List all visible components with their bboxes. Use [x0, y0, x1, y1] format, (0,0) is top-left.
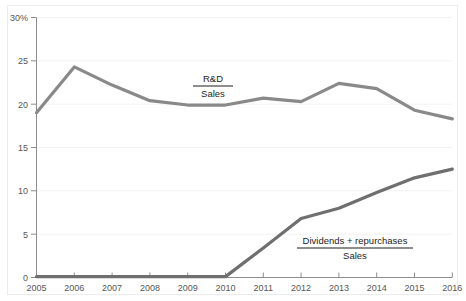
xtick-label-2009: 2009 — [178, 283, 198, 293]
chart-figure: 30% 25 20 15 10 5 0 2005 2006 2007 2008 … — [0, 0, 466, 301]
xtick-label-2005: 2005 — [26, 283, 46, 293]
ytick-label-30: 30% — [10, 13, 28, 23]
ytick-label-15: 15 — [18, 143, 28, 153]
xtick-label-2008: 2008 — [140, 283, 160, 293]
xtick-label-2012: 2012 — [291, 283, 311, 293]
xtick-label-2007: 2007 — [102, 283, 122, 293]
line-chart: 30% 25 20 15 10 5 0 2005 2006 2007 2008 … — [0, 0, 466, 301]
xtick-label-2013: 2013 — [329, 283, 349, 293]
ytick-label-5: 5 — [23, 230, 28, 240]
xtick-label-2011: 2011 — [254, 283, 273, 293]
y-tick-marks — [31, 18, 37, 278]
xtick-label-2006: 2006 — [64, 283, 84, 293]
xtick-label-2010: 2010 — [215, 283, 235, 293]
ytick-label-25: 25 — [18, 56, 28, 66]
dividends-sales-annotation: Dividends + repurchases Sales — [297, 235, 413, 261]
gridlines — [36, 18, 452, 235]
series-line-dividends-sales — [37, 169, 453, 276]
dividends-sales-numerator: Dividends + repurchases — [303, 235, 408, 246]
rd-sales-numerator: R&D — [203, 73, 223, 84]
ytick-label-20: 20 — [18, 100, 28, 110]
rd-sales-annotation: R&D Sales — [193, 73, 233, 99]
ytick-label-0: 0 — [23, 273, 28, 283]
rd-sales-denominator: Sales — [201, 88, 225, 99]
xtick-label-2014: 2014 — [367, 283, 387, 293]
series-line-rd-sales — [37, 67, 453, 119]
dividends-sales-denominator: Sales — [343, 250, 367, 261]
xtick-label-2016: 2016 — [442, 283, 462, 293]
xtick-label-2015: 2015 — [404, 283, 424, 293]
ytick-label-10: 10 — [18, 186, 28, 196]
